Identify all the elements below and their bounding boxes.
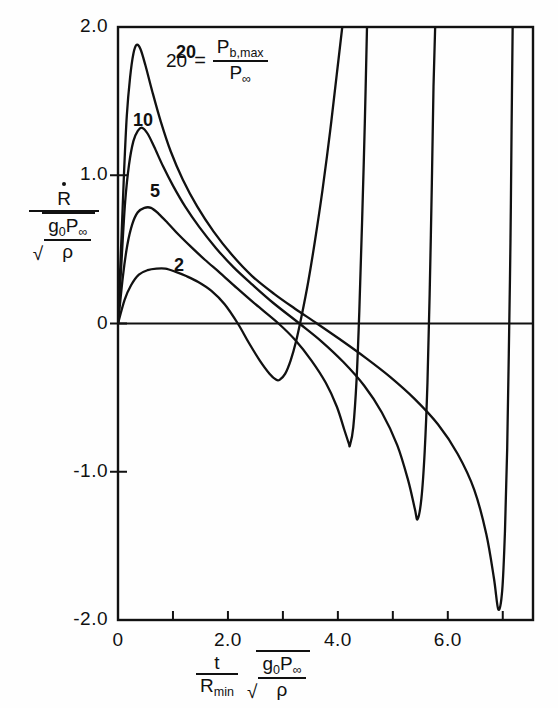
y-axis-radical: √ g0P∞ ρ bbox=[33, 212, 96, 263]
annotation-numerator-subscript: b,max bbox=[230, 46, 264, 60]
y-axis-title: R √ g0P∞ ρ bbox=[12, 188, 116, 264]
curve-5 bbox=[118, 27, 367, 446]
annotation-denominator: P∞ bbox=[213, 62, 268, 86]
y-axis-fraction: R √ g0P∞ ρ bbox=[29, 188, 100, 264]
curve-label-5: 5 bbox=[150, 181, 160, 202]
p-symbol: P bbox=[66, 215, 79, 236]
pressure-ratio-annotation: 20 = Pb,max P∞ bbox=[166, 36, 268, 86]
curve-20 bbox=[118, 27, 513, 610]
p-infinity-subscript: ∞ bbox=[78, 224, 87, 238]
x-axis-inner-fraction: g0P∞ ρ bbox=[258, 653, 305, 701]
x-axis-fraction: t Rmin bbox=[196, 652, 238, 700]
y-tick-label-2: 2.0 bbox=[22, 15, 108, 37]
y-axis-inner-fraction: g0P∞ ρ bbox=[44, 215, 91, 263]
annotation-denominator-subscript: ∞ bbox=[242, 71, 251, 85]
annotation-numerator-symbol: P bbox=[217, 36, 230, 57]
g0-subscript: 0 bbox=[273, 663, 280, 677]
annotation-fraction: Pb,max P∞ bbox=[213, 36, 268, 86]
x-axis-inner-numerator: g0P∞ bbox=[258, 653, 305, 679]
data-curves bbox=[118, 27, 513, 610]
x-axis-radical: √ g0P∞ ρ bbox=[247, 650, 310, 701]
curve-label-10: 10 bbox=[133, 110, 153, 131]
p-symbol: P bbox=[280, 653, 293, 674]
x-tick-label-4: 4.0 bbox=[308, 629, 368, 651]
curve-10 bbox=[118, 27, 435, 520]
x-axis-title: t Rmin √ g0P∞ ρ bbox=[196, 650, 310, 701]
x-axis-denominator: Rmin bbox=[196, 675, 238, 699]
y-axis-numerator: R bbox=[29, 188, 100, 212]
y-axis-inner-numerator: g0P∞ bbox=[44, 215, 91, 241]
p-infinity-subscript: ∞ bbox=[293, 663, 302, 677]
y-tick-label-0: 0 bbox=[22, 312, 108, 334]
annotation-denominator-symbol: P bbox=[229, 62, 242, 83]
g0-symbol: g bbox=[262, 653, 273, 674]
x-tick-label-6: 6.0 bbox=[418, 629, 478, 651]
annotation-value: 20 bbox=[166, 50, 187, 72]
x-axis-radicand: g0P∞ ρ bbox=[256, 650, 309, 701]
r-min-subscript: min bbox=[214, 685, 234, 699]
x-tick-label-0: 0 bbox=[88, 629, 148, 651]
g0-subscript: 0 bbox=[59, 224, 66, 238]
y-tick-label-neg1: -1.0 bbox=[22, 460, 108, 482]
plot-canvas bbox=[0, 0, 558, 708]
rho-symbol: ρ bbox=[44, 241, 91, 263]
x-tick-label-2: 2.0 bbox=[198, 629, 258, 651]
curve-label-2: 2 bbox=[174, 255, 184, 276]
axis-ticks bbox=[110, 175, 503, 620]
g0-symbol: g bbox=[48, 215, 59, 236]
rho-symbol: ρ bbox=[258, 679, 305, 701]
r-symbol: R bbox=[200, 675, 214, 696]
y-axis-radicand: g0P∞ ρ bbox=[42, 212, 95, 263]
annotation-equals: = bbox=[194, 49, 206, 72]
y-tick-label-neg2: -2.0 bbox=[22, 608, 108, 630]
t-symbol: t bbox=[196, 652, 238, 676]
r-dot-symbol: R bbox=[57, 188, 71, 209]
annotation-numerator: Pb,max bbox=[213, 36, 268, 62]
figure-container: 2.0 1.0 0 -1.0 -2.0 0 2.0 4.0 6.0 20 10 … bbox=[0, 0, 558, 708]
y-axis-denominator: √ g0P∞ ρ bbox=[29, 212, 100, 265]
